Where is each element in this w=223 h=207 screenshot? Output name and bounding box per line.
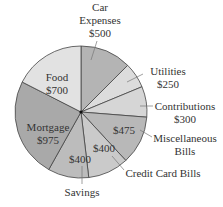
slice-label-miscellaneous-bills: Miscellaneous bbox=[153, 132, 217, 144]
pie-center-dot bbox=[79, 110, 82, 113]
slice-label-credit-card-bills: Credit Card Bills bbox=[125, 167, 200, 179]
slice-value-credit-card-bills: $400 bbox=[93, 142, 116, 154]
slice-label-contributions: $300 bbox=[174, 113, 197, 125]
slice-label-miscellaneous-bills: Bills bbox=[175, 145, 196, 157]
slice-label-car-expenses: Expenses bbox=[79, 14, 121, 26]
slice-label-car-expenses: Car bbox=[92, 1, 108, 13]
pie-chart: CarExpenses$500Utilities$250Contribution… bbox=[0, 0, 223, 207]
slice-label-contributions: Contributions bbox=[155, 100, 216, 112]
slice-label-mortgage: $975 bbox=[37, 134, 60, 146]
slice-label-savings: Savings bbox=[65, 186, 100, 198]
slice-value-savings: $400 bbox=[69, 153, 92, 165]
slice-label-mortgage: Mortgage bbox=[27, 121, 70, 133]
slice-label-food: Food bbox=[46, 71, 69, 83]
slice-label-food: $700 bbox=[46, 84, 69, 96]
slice-label-utilities: Utilities bbox=[150, 65, 185, 77]
slice-label-utilities: $250 bbox=[157, 78, 180, 90]
slice-value-miscellaneous-bills: $475 bbox=[113, 124, 136, 136]
slice-label-car-expenses: $500 bbox=[89, 27, 112, 39]
